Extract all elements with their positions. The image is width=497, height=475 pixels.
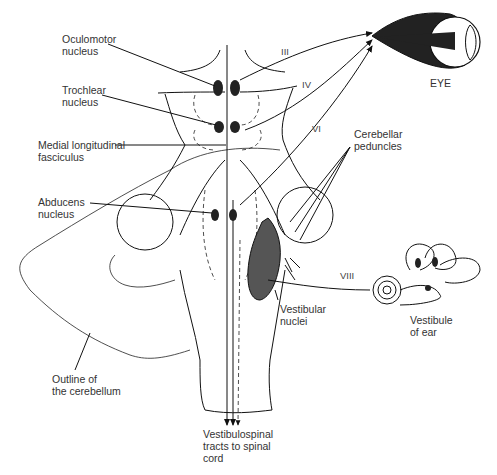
inner-ear-illustration — [373, 244, 480, 305]
nerve-III — [240, 33, 372, 80]
oculomotor-nucleus-right — [230, 80, 240, 96]
label-trochlear: Trochlear nucleus — [62, 84, 106, 108]
label-outline-cerebellum: Outline of the cerebellum — [52, 373, 121, 397]
right-peduncle — [277, 187, 333, 243]
flocculus — [110, 255, 175, 287]
oculomotor-nucleus-left — [213, 80, 223, 96]
label-mlf: Medial longitudinal fasciculus — [38, 139, 125, 163]
leader-peduncle-3 — [300, 147, 350, 240]
brainstem-diagram — [0, 0, 497, 475]
nerve-label-VIII: VIII — [340, 270, 354, 281]
nerve-label-VI: VI — [312, 123, 321, 134]
label-vestibule-of-ear: Vestibule of ear — [410, 314, 453, 338]
left-peduncle — [117, 194, 173, 250]
leader-peduncle-1 — [290, 147, 350, 222]
label-vestibulospinal: Vestibulospinal tracts to spinal cord — [203, 428, 273, 464]
leader-trochlear — [102, 95, 216, 125]
leader-abducens — [90, 203, 212, 213]
label-oculomotor: Oculomotor nucleus — [62, 33, 116, 57]
leader-cerebellum — [75, 333, 90, 370]
trochlear-nucleus-left — [214, 121, 224, 133]
label-abducens: Abducens nucleus — [38, 196, 85, 220]
leader-peduncle-2 — [295, 147, 350, 232]
abducens-nucleus-left — [211, 209, 219, 221]
trochlear-nucleus-right — [230, 121, 240, 133]
vestibular-branches — [285, 258, 300, 280]
nerve-label-IV: IV — [302, 79, 311, 90]
abducens-nucleus-right — [229, 209, 237, 221]
label-vestibular-nuclei: Vestibular nuclei — [280, 303, 326, 327]
eye-illustration — [372, 13, 480, 68]
nerve-label-III: III — [281, 46, 289, 57]
cerebellum-outline — [20, 148, 280, 358]
vestibular-nuclei-shape — [248, 218, 280, 300]
leader-oculomotor — [108, 44, 215, 86]
label-eye: EYE — [430, 77, 451, 89]
midbrain-outline — [180, 50, 285, 72]
vestibulospinal-lateral — [238, 240, 240, 425]
label-cerebellar-peduncles: Cerebellar peduncles — [354, 128, 402, 152]
leader-vestibular-nuclei — [275, 290, 278, 300]
